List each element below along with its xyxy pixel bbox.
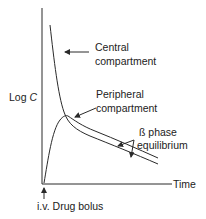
- beta-label-line1: ß phase: [139, 126, 177, 138]
- beta-label-line2: equilibrium: [137, 139, 188, 151]
- beta-arrow-lower-icon: [131, 140, 134, 157]
- peripheral-label-line2: compartment: [96, 102, 157, 114]
- peripheral-label-line1: Peripheral: [96, 88, 144, 100]
- x-axis-label: Time: [173, 178, 196, 190]
- bolus-label: i.v. Drug bolus: [37, 200, 103, 212]
- central-label-line1: Central: [95, 41, 129, 53]
- pk-two-compartment-diagram: Log C Time Central compartment Periphera…: [0, 0, 206, 219]
- beta-arrow-upper-icon: [118, 140, 134, 146]
- peripheral-arrow-icon: [75, 108, 96, 117]
- y-axis-label: Log C: [9, 91, 37, 103]
- central-label-line2: compartment: [95, 55, 156, 67]
